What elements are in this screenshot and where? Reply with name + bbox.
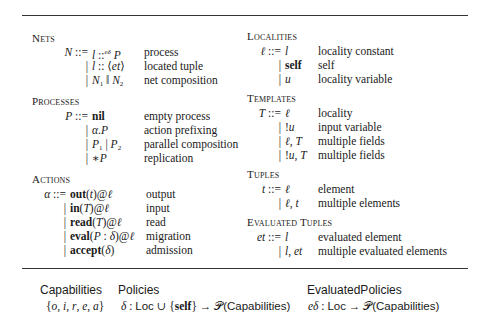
grammar-rhs: in(T)@ℓ xyxy=(70,202,109,214)
policies-label: Policies xyxy=(118,284,159,296)
grammar-lhs: | xyxy=(30,216,66,228)
grammar-lhs: | xyxy=(30,124,88,136)
grammar-desc: input variable xyxy=(318,121,382,133)
evaluated-policies-value: eδ : Loc → 𝒫(Capabilities) xyxy=(308,300,439,312)
grammar-desc: admission xyxy=(146,244,193,256)
grammar-lhs: t ::= xyxy=(245,183,281,195)
grammar-rhs: eval(P : δ)@ℓ xyxy=(70,230,134,242)
grammar-desc: migration xyxy=(146,230,191,242)
grammar-lhs: | xyxy=(30,74,88,86)
grammar-desc: element xyxy=(318,183,354,195)
grammar-rhs: read(T)@ℓ xyxy=(70,216,122,228)
grammar-rhs: N1 ‖ N2 xyxy=(92,74,123,90)
grammar-lhs: | xyxy=(245,59,281,71)
grammar-lhs: N ::= xyxy=(30,46,88,58)
grammar-rhs: ℓ xyxy=(285,107,290,119)
grammar-lhs: | xyxy=(245,121,281,133)
grammar-rhs: self xyxy=(285,59,302,71)
grammar-lhs: et ::= xyxy=(245,231,281,243)
section-title-tuples: Tuples xyxy=(247,169,279,180)
top-rule xyxy=(22,15,468,16)
grammar-lhs: | xyxy=(30,152,88,164)
section-title-templates: Templates xyxy=(247,93,296,104)
grammar-lhs: | xyxy=(245,245,281,257)
grammar-desc: evaluated element xyxy=(318,231,401,243)
policies-value: δ : Loc ∪ {self} → 𝒫(Capabilities) xyxy=(121,300,290,312)
grammar-rhs: ℓ xyxy=(285,183,290,195)
grammar-lhs: ℓ ::= xyxy=(245,45,281,57)
grammar-rhs: α.P xyxy=(92,124,108,136)
capabilities-value: {o, i, r, e, a} xyxy=(46,300,104,312)
grammar-desc: locality constant xyxy=(318,45,394,57)
grammar-desc: output xyxy=(146,188,175,200)
grammar-rhs: l xyxy=(285,231,288,243)
grammar-rhs: ∗P xyxy=(92,152,107,164)
grammar-rhs: !u, T xyxy=(285,149,307,161)
grammar-desc: input xyxy=(146,202,170,214)
grammar-lhs: | xyxy=(30,244,66,256)
grammar-rhs: accept(δ) xyxy=(70,244,114,256)
grammar-rhs: l :: ⟨et⟩ xyxy=(92,60,125,72)
grammar-rhs: out(t)@ℓ xyxy=(70,188,112,200)
grammar-desc: self xyxy=(318,59,335,71)
grammar-desc: parallel composition xyxy=(144,138,238,150)
grammar-lhs: α ::= xyxy=(30,188,66,200)
evaluated-policies-label: EvaluatedPolicies xyxy=(307,284,402,296)
grammar-desc: process xyxy=(144,46,179,58)
grammar-rhs: ℓ, T xyxy=(285,135,302,147)
grammar-lhs: | xyxy=(30,138,88,150)
grammar-desc: read xyxy=(146,216,166,228)
section-title-actions: Actions xyxy=(32,174,70,185)
grammar-lhs: | xyxy=(30,202,66,214)
grammar-lhs: | xyxy=(245,73,281,85)
grammar-desc: locality xyxy=(318,107,353,119)
grammar-desc: net composition xyxy=(144,74,218,86)
grammar-lhs: | xyxy=(245,197,281,209)
grammar-rhs: l xyxy=(285,45,288,57)
section-title-evaluated-tuples: Evaluated Tuples xyxy=(247,217,332,228)
grammar-desc: multiple fields xyxy=(318,149,385,161)
grammar-rhs: nil xyxy=(92,110,105,122)
grammar-lhs: | xyxy=(30,60,88,72)
grammar-lhs: P ::= xyxy=(30,110,88,122)
grammar-lhs: | xyxy=(245,149,281,161)
bottom-rule xyxy=(22,268,468,269)
section-title-localities: Localities xyxy=(247,31,297,42)
grammar-desc: action prefixing xyxy=(144,124,217,136)
grammar-rhs: l ::eδ P xyxy=(92,46,121,61)
section-title-processes: Processes xyxy=(32,96,80,107)
grammar-desc: empty process xyxy=(144,110,210,122)
grammar-desc: locality variable xyxy=(318,73,392,85)
grammar-lhs: T ::= xyxy=(245,107,281,119)
section-title-nets: Nets xyxy=(32,33,55,44)
grammar-desc: located tuple xyxy=(144,60,203,72)
grammar-desc: multiple fields xyxy=(318,135,385,147)
grammar-lhs: | xyxy=(245,135,281,147)
capabilities-label: Capabilities xyxy=(40,284,102,296)
grammar-rhs: ℓ, t xyxy=(285,197,299,209)
grammar-lhs: | xyxy=(30,230,66,242)
grammar-rhs: l, et xyxy=(285,245,302,257)
grammar-desc: replication xyxy=(144,152,193,164)
grammar-desc: multiple evaluated elements xyxy=(318,245,447,257)
grammar-desc: multiple elements xyxy=(318,197,400,209)
grammar-rhs: !u xyxy=(285,121,295,133)
grammar-rhs: u xyxy=(285,73,291,85)
